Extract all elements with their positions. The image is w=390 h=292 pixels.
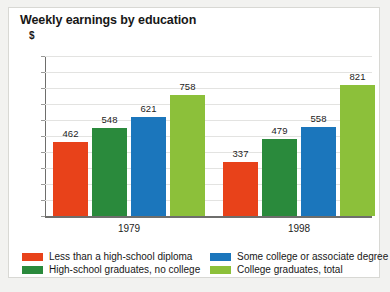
bar bbox=[223, 162, 258, 216]
gridline bbox=[45, 56, 372, 57]
bar bbox=[131, 117, 166, 216]
legend-swatch bbox=[22, 266, 43, 274]
gridline bbox=[45, 104, 372, 105]
legend-label: Less than a high-school diploma bbox=[49, 251, 192, 262]
bar bbox=[170, 95, 205, 216]
y-axis-tick bbox=[41, 88, 45, 89]
chart-figure: Weekly earnings by education $ 100090080… bbox=[0, 0, 390, 292]
bar bbox=[301, 127, 336, 216]
y-axis-tick bbox=[41, 104, 45, 105]
bar-value-label: 337 bbox=[217, 148, 264, 159]
legend-label: High-school graduates, no college bbox=[49, 264, 200, 275]
y-axis-tick bbox=[41, 184, 45, 185]
plot-area: 1000900800700600500400300200100046254862… bbox=[45, 56, 372, 216]
legend-label: Some college or associate degree bbox=[237, 251, 388, 262]
y-axis-tick bbox=[41, 152, 45, 153]
y-axis-tick bbox=[41, 216, 45, 217]
chart-title: Weekly earnings by education bbox=[20, 13, 196, 27]
bar bbox=[53, 142, 88, 216]
bar-value-label: 821 bbox=[334, 71, 381, 82]
bar-value-label: 479 bbox=[256, 125, 303, 136]
y-axis-tick bbox=[41, 200, 45, 201]
bar-value-label: 548 bbox=[86, 114, 133, 125]
gridline bbox=[45, 72, 372, 73]
legend-swatch bbox=[210, 266, 231, 274]
x-axis-category-label: 1979 bbox=[53, 223, 205, 234]
legend-item[interactable]: High-school graduates, no college bbox=[22, 264, 200, 275]
bar bbox=[340, 85, 375, 216]
bar bbox=[262, 139, 297, 216]
bar-value-label: 462 bbox=[47, 128, 94, 139]
y-axis-tick bbox=[41, 120, 45, 121]
chart-legend: Less than a high-school diplomaSome coll… bbox=[22, 251, 372, 277]
chart-subtitle-units: $ bbox=[29, 30, 35, 41]
legend-label: College graduates, total bbox=[237, 264, 343, 275]
y-axis-tick bbox=[41, 56, 45, 57]
legend-swatch bbox=[22, 253, 43, 261]
bar-value-label: 758 bbox=[164, 81, 211, 92]
legend-item[interactable]: Less than a high-school diploma bbox=[22, 251, 192, 262]
bar-value-label: 621 bbox=[125, 103, 172, 114]
legend-item[interactable]: College graduates, total bbox=[210, 264, 343, 275]
y-axis-tick bbox=[41, 136, 45, 137]
bar bbox=[92, 128, 127, 216]
x-axis-line bbox=[45, 216, 372, 218]
legend-item[interactable]: Some college or associate degree bbox=[210, 251, 388, 262]
bar-value-label: 558 bbox=[295, 113, 342, 124]
y-axis-tick bbox=[41, 72, 45, 73]
y-axis-tick bbox=[41, 168, 45, 169]
x-axis-category-label: 1998 bbox=[223, 223, 375, 234]
legend-swatch bbox=[210, 253, 231, 261]
